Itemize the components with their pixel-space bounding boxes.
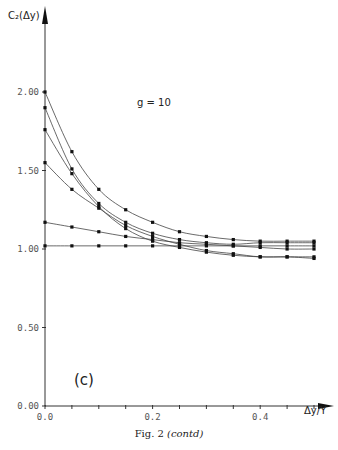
data-point-marker (124, 244, 127, 247)
data-point-marker (124, 208, 127, 211)
data-point-marker (312, 247, 315, 250)
y-tick-label: 1.00 (17, 244, 39, 254)
data-point-marker (312, 244, 315, 247)
data-point-marker (178, 244, 181, 247)
caption-main: Fig. 2 (135, 428, 167, 439)
data-point-marker (205, 235, 208, 238)
x-tick-label: 0.2 (144, 412, 160, 422)
data-point-marker (151, 238, 154, 241)
x-tick-label: 0.0 (37, 412, 53, 422)
data-point-marker (97, 207, 100, 210)
data-point-marker (43, 128, 46, 131)
data-point-marker (124, 221, 127, 224)
data-point-marker (124, 235, 127, 238)
data-series (43, 90, 315, 260)
series-line (45, 92, 314, 241)
data-point-marker (205, 249, 208, 252)
data-point-marker (259, 255, 262, 258)
data-point-marker (43, 161, 46, 164)
data-point-marker (151, 221, 154, 224)
data-point-marker (70, 225, 73, 228)
data-point-marker (259, 244, 262, 247)
data-point-marker (178, 238, 181, 241)
data-point-marker (205, 244, 208, 247)
panel-label: (c) (74, 371, 94, 389)
data-point-marker (43, 244, 46, 247)
data-point-marker (70, 150, 73, 153)
data-point-marker (178, 230, 181, 233)
data-point-marker (232, 244, 235, 247)
data-point-marker (70, 172, 73, 175)
y-axis-title: C₂(Δy) (8, 10, 40, 21)
data-point-marker (70, 167, 73, 170)
data-point-marker (286, 247, 289, 250)
data-point-marker (70, 244, 73, 247)
x-tick-label: 0.4 (252, 412, 268, 422)
data-point-marker (151, 235, 154, 238)
data-point-marker (286, 255, 289, 258)
y-tick-label: 0.00 (17, 401, 39, 411)
data-point-marker (232, 238, 235, 241)
data-point-marker (312, 257, 315, 260)
caption-italic: (contd) (167, 428, 203, 439)
data-point-marker (312, 241, 315, 244)
data-point-marker (97, 188, 100, 191)
data-point-marker (124, 224, 127, 227)
data-point-marker (97, 230, 100, 233)
data-point-marker (232, 252, 235, 255)
y-tick-label: 2.00 (17, 87, 39, 97)
data-point-marker (124, 227, 127, 230)
data-point-marker (43, 90, 46, 93)
y-axis-arrow-icon (42, 6, 48, 24)
parameter-annotation: g = 10 (137, 97, 171, 108)
x-axis-title: Δy/Y (304, 405, 327, 416)
axes: 0.000.501.001.502.000.00.20.4 (17, 6, 334, 422)
data-point-marker (97, 244, 100, 247)
series-line (45, 130, 314, 257)
data-point-marker (286, 244, 289, 247)
data-point-marker (151, 232, 154, 235)
chart: 0.000.501.001.502.000.00.20.4 C₂(Δy) Δy/… (0, 0, 338, 450)
figure-caption: Fig. 2 (contd) (0, 428, 338, 439)
data-point-marker (43, 221, 46, 224)
series-line (45, 108, 314, 245)
data-point-marker (151, 244, 154, 247)
data-point-marker (70, 188, 73, 191)
data-point-marker (97, 202, 100, 205)
data-point-marker (178, 241, 181, 244)
data-point-marker (43, 106, 46, 109)
y-tick-label: 1.50 (17, 166, 39, 176)
data-point-marker (259, 241, 262, 244)
y-tick-label: 0.50 (17, 323, 39, 333)
data-point-marker (286, 241, 289, 244)
